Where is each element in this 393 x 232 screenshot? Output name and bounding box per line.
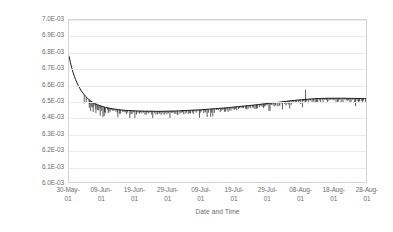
chart-container: Stern-Geary constant, V 7.0E-036.9E-036.… (0, 0, 393, 232)
gridline (69, 151, 366, 152)
x-tick-line1: 28-Aug- (356, 186, 378, 193)
gridline (69, 86, 366, 87)
y-axis-tick-label: 6.7E-03 (34, 64, 64, 72)
x-tick-line1: 08-Aug- (289, 186, 311, 193)
plot-area (68, 19, 367, 183)
gridline (69, 53, 366, 54)
gridline (69, 135, 366, 136)
x-tick-line1: 18-Aug- (323, 186, 345, 193)
x-axis-tick-labels: 30-May-0109-Jun-0119-Jun-0129-Jun-0109-J… (68, 185, 367, 207)
y-axis-tick-label: 7.0E-03 (34, 15, 64, 23)
x-tick-line1: 30-May- (56, 186, 79, 193)
y-axis-tick-label: 6.5E-03 (34, 97, 64, 105)
y-axis-tick-label: 6.6E-03 (34, 81, 64, 89)
gridline (69, 102, 366, 103)
x-tick-line1: 19-Jul- (225, 186, 244, 193)
gridline (69, 69, 366, 70)
x-axis-title: Date and Time (68, 208, 367, 215)
x-tick-line1: 29-Jun- (157, 186, 178, 193)
y-axis-tick-label: 6.8E-03 (34, 48, 64, 56)
y-axis-tick-label: 6.4E-03 (34, 113, 64, 121)
y-axis-tick-label: 6.3E-03 (34, 130, 64, 138)
x-tick-line1: 09-Jun- (91, 186, 112, 193)
gridline (69, 118, 366, 119)
y-axis-tick-label: 6.1E-03 (34, 163, 64, 171)
y-axis-tick-label: 6.9E-03 (34, 31, 64, 39)
x-axis-tick-label: 28-Aug-01 (344, 185, 390, 203)
y-axis-tick-label: 6.2E-03 (34, 146, 64, 154)
x-tick-line2: 01 (344, 194, 390, 203)
gridline (69, 20, 366, 21)
x-tick-line1: 09-Jul- (191, 186, 210, 193)
gridline (69, 168, 366, 169)
gridline (69, 36, 366, 37)
x-tick-line1: 19-Jun- (124, 186, 145, 193)
x-tick-line1: 29-Jul- (258, 186, 277, 193)
